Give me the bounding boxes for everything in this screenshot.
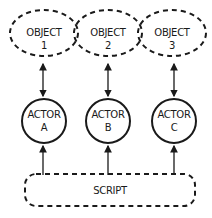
object-node-1: OBJECT 1 — [10, 10, 78, 56]
actor-c-letter: C — [171, 122, 178, 133]
script-node: SCRIPT — [25, 174, 195, 206]
script-label: SCRIPT — [93, 185, 128, 196]
object-3-number: 3 — [169, 40, 175, 51]
object-1-number: 1 — [41, 40, 47, 51]
object-node-3: OBJECT 3 — [138, 10, 206, 56]
object-node-2: OBJECT 2 — [74, 10, 142, 56]
object-2-number: 2 — [105, 40, 111, 51]
actor-c-label: ACTOR — [157, 109, 190, 120]
actor-node-a: ACTOR A — [22, 99, 66, 143]
object-2-label: OBJECT — [90, 27, 126, 38]
object-3-label: OBJECT — [154, 27, 190, 38]
actor-node-b: ACTOR B — [86, 99, 130, 143]
diagram-canvas: OBJECT 1 OBJECT 2 OBJECT 3 ACTOR A ACTOR… — [0, 0, 212, 218]
object-1-label: OBJECT — [26, 27, 62, 38]
actor-b-label: ACTOR — [91, 109, 124, 120]
actor-a-label: ACTOR — [27, 109, 60, 120]
actor-node-c: ACTOR C — [152, 99, 196, 143]
actor-b-letter: B — [105, 122, 112, 133]
actor-a-letter: A — [41, 122, 48, 133]
